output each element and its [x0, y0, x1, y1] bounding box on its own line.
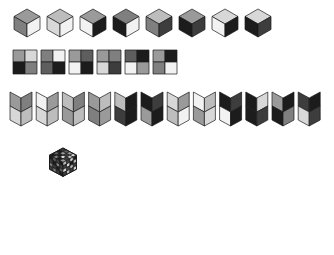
cube-item[interactable]	[146, 9, 172, 37]
chevron-item[interactable]	[62, 92, 84, 126]
square-cell-bl[interactable]	[97, 62, 109, 74]
square-cell-bl[interactable]	[41, 62, 53, 74]
chevron-item[interactable]	[141, 92, 163, 126]
square-cell-br[interactable]	[137, 62, 149, 74]
square-cell-tr[interactable]	[137, 50, 149, 62]
cube-row	[14, 9, 271, 37]
chevron-item[interactable]	[115, 92, 137, 126]
square-cell-bl[interactable]	[13, 62, 25, 74]
chevron-item[interactable]	[36, 92, 58, 126]
chevron-item[interactable]	[272, 92, 294, 126]
chevron-item[interactable]	[167, 92, 189, 126]
square-cell-bl[interactable]	[69, 62, 81, 74]
square-cell-tr[interactable]	[81, 50, 93, 62]
square-item[interactable]	[125, 50, 149, 74]
square-cell-br[interactable]	[81, 62, 93, 74]
square-cell-tr[interactable]	[109, 50, 121, 62]
square-cell-tl[interactable]	[13, 50, 25, 62]
chevron-item[interactable]	[10, 92, 32, 126]
stimuli-scene	[0, 0, 334, 255]
square-cell-bl[interactable]	[153, 62, 165, 74]
square-item[interactable]	[97, 50, 121, 74]
square-cell-br[interactable]	[53, 62, 65, 74]
cube-item[interactable]	[212, 9, 238, 37]
chevron-row	[10, 92, 320, 126]
chevron-item[interactable]	[220, 92, 242, 126]
square-item[interactable]	[13, 50, 37, 74]
figure-canvas	[0, 0, 334, 255]
square-item[interactable]	[41, 50, 65, 74]
square-cell-bl[interactable]	[125, 62, 137, 74]
square-cell-br[interactable]	[109, 62, 121, 74]
square-cell-tr[interactable]	[25, 50, 37, 62]
square-item[interactable]	[153, 50, 177, 74]
chevron-item[interactable]	[298, 92, 320, 126]
square-cell-tr[interactable]	[165, 50, 177, 62]
cube-item[interactable]	[245, 9, 271, 37]
cube-item[interactable]	[113, 9, 139, 37]
cube-item[interactable]	[179, 9, 205, 37]
square-cell-br[interactable]	[165, 62, 177, 74]
cube-item[interactable]	[80, 9, 106, 37]
square-cell-tl[interactable]	[153, 50, 165, 62]
square-item[interactable]	[69, 50, 93, 74]
large-isometric-cube[interactable]	[50, 148, 77, 176]
square-cell-br[interactable]	[25, 62, 37, 74]
square-cell-tr[interactable]	[53, 50, 65, 62]
chevron-item[interactable]	[89, 92, 111, 126]
square-cell-tl[interactable]	[97, 50, 109, 62]
chevron-item[interactable]	[246, 92, 268, 126]
square-cell-tl[interactable]	[69, 50, 81, 62]
cube-item[interactable]	[47, 9, 73, 37]
square-row	[13, 50, 177, 74]
square-cell-tl[interactable]	[41, 50, 53, 62]
square-cell-tl[interactable]	[125, 50, 137, 62]
chevron-item[interactable]	[193, 92, 215, 126]
cube-item[interactable]	[14, 9, 40, 37]
